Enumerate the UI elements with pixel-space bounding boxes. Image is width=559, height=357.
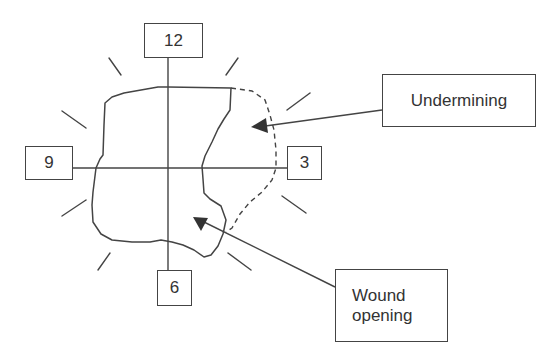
wound-opening-outline	[92, 87, 231, 257]
clock-label-6-text: 6	[170, 278, 179, 298]
radiating-tick-marks	[62, 58, 310, 270]
undermining-arrow	[258, 110, 382, 127]
clock-label-12-text: 12	[164, 31, 183, 51]
clock-label-6: 6	[157, 270, 192, 306]
undermining-callout: Undermining	[382, 74, 536, 127]
wound-opening-arrowhead-icon	[193, 217, 208, 231]
wound-diagram-canvas	[0, 0, 559, 357]
wound-opening-callout: Wound opening	[335, 269, 448, 342]
clock-label-3-text: 3	[300, 153, 309, 173]
undermining-callout-text: Undermining	[411, 91, 507, 111]
clock-label-12: 12	[144, 23, 203, 58]
wound-opening-arrow	[204, 222, 335, 287]
wound-opening-callout-text: Wound opening	[352, 286, 433, 325]
undermining-arrowhead-icon	[251, 118, 268, 133]
clock-label-9: 9	[25, 146, 73, 180]
clock-label-3: 3	[287, 146, 322, 180]
clock-label-9-text: 9	[44, 153, 53, 173]
undermining-outline	[226, 88, 276, 232]
